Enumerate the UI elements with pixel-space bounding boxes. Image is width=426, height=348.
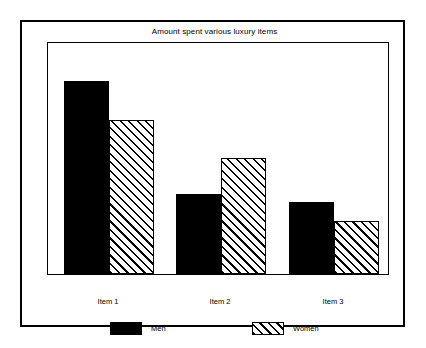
bar-women-item-3 [334,221,379,274]
category-label-3: Item 3 [293,297,373,306]
bar-women-item-1 [109,120,154,274]
legend-entry-men: Men [110,318,166,338]
bar-men-item-2 [176,194,221,274]
chart-title: Amount spent various luxury items [22,27,407,36]
bar-men-item-3 [289,202,334,274]
category-label-2: Item 2 [180,297,260,306]
plot-area [48,43,388,274]
chart-legend: Men Women [22,318,407,342]
hatched-swatch-icon [252,322,284,335]
legend-label-men: Men [151,324,166,333]
chart-figure: Amount spent various luxury items Item 1… [0,0,426,348]
bar-women-item-2 [221,158,266,274]
category-label-1: Item 1 [68,297,148,306]
legend-entry-women: Women [252,318,319,338]
plot-frame [47,42,389,275]
solid-black-swatch-icon [110,322,142,335]
figure-border: Amount spent various luxury items Item 1… [20,20,405,327]
legend-label-women: Women [293,324,319,333]
bar-men-item-1 [64,81,109,274]
